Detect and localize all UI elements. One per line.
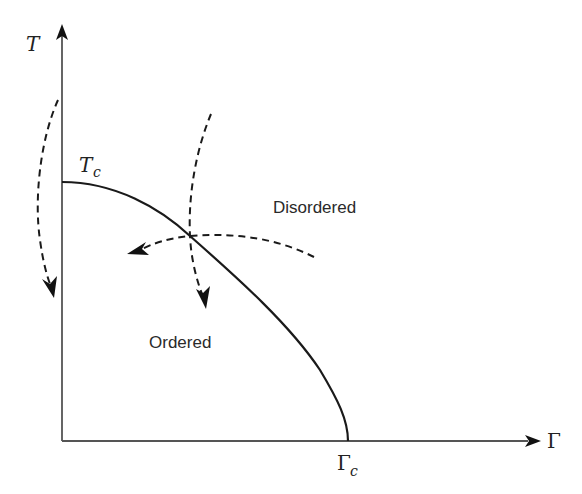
thermal-quench-path <box>38 100 58 298</box>
field-quench-arrow-icon <box>127 242 149 255</box>
thermal-quench-arrow-icon <box>42 276 57 298</box>
temperature-quench-path <box>190 114 211 309</box>
x-axis-label: Γ <box>547 429 561 453</box>
y-axis <box>56 24 68 441</box>
gammac-symbol: Γ <box>337 451 351 475</box>
tc-symbol: T <box>79 153 94 177</box>
critical-field-label: Γ c <box>337 451 358 479</box>
disordered-region-label: Disordered <box>273 198 356 217</box>
gammac-subscript: c <box>350 463 358 479</box>
critical-temperature-label: T c <box>79 153 101 180</box>
field-quench-path <box>127 235 314 257</box>
phase-boundary-curve <box>62 182 348 441</box>
x-axis <box>62 435 541 447</box>
y-axis-label: T <box>26 32 41 56</box>
ordered-region-label: Ordered <box>149 333 211 352</box>
temperature-quench-arrow-icon <box>196 286 210 309</box>
phase-diagram: T Γ T c Γ c Disordered Ordered <box>0 0 582 494</box>
tc-subscript: c <box>93 164 101 180</box>
